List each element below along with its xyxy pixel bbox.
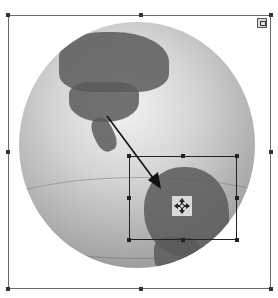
crop-handle-right[interactable] <box>235 196 239 200</box>
crop-handle-left[interactable] <box>127 196 131 200</box>
direction-arrow <box>0 0 278 298</box>
crop-handle-top-left[interactable] <box>127 154 131 158</box>
crop-handle-top-right[interactable] <box>235 154 239 158</box>
image-canvas <box>0 0 278 298</box>
crop-handle-bottom-right[interactable] <box>235 238 239 242</box>
crop-handle-top[interactable] <box>181 154 185 158</box>
move-cross-icon[interactable] <box>172 196 192 216</box>
crop-handle-bottom[interactable] <box>181 238 185 242</box>
crop-handle-bottom-left[interactable] <box>127 238 131 242</box>
